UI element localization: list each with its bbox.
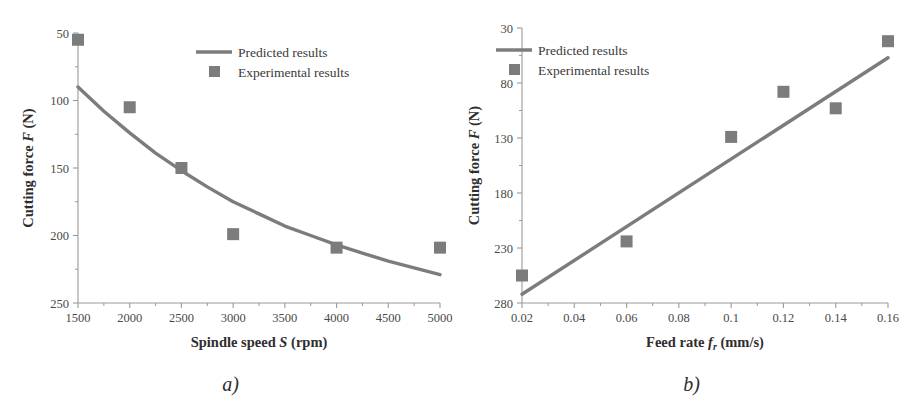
x-tick-label: 0.1: [723, 311, 739, 325]
x-tick-label: 3000: [221, 311, 246, 325]
experimental-data-point: [777, 86, 789, 98]
x-tick-label: 0.08: [668, 311, 690, 325]
predicted-results-line: [78, 87, 440, 275]
x-tick-label: 2500: [169, 311, 194, 325]
x-axis-title: Spindle speed S (rpm): [191, 334, 328, 351]
x-tick-label: 3500: [272, 311, 297, 325]
x-tick-label: 1500: [66, 311, 91, 325]
x-tick-label: 0.06: [616, 311, 638, 325]
y-tick-label: 150: [50, 162, 69, 176]
experimental-data-point: [331, 242, 343, 254]
legend-marker-swatch: [509, 64, 520, 75]
experimental-data-point: [830, 102, 842, 114]
legend-marker-label: Experimental results: [538, 63, 649, 78]
legend-marker-label: Experimental results: [238, 65, 349, 80]
legend-line-label: Predicted results: [538, 43, 628, 58]
experimental-data-point: [516, 270, 528, 282]
y-tick-label: 100: [50, 94, 69, 108]
panel-a: 2502001501005015002000250030003500400045…: [0, 0, 461, 404]
y-tick-label: 180: [494, 187, 513, 201]
figure-container: 2502001501005015002000250030003500400045…: [0, 0, 922, 404]
x-tick-label: 0.12: [772, 311, 794, 325]
x-tick-label: 0.14: [825, 311, 848, 325]
experimental-data-point: [882, 35, 894, 47]
y-tick-label: 30: [501, 22, 514, 36]
panel-a-caption: a): [0, 373, 461, 396]
x-axis-title: Feed rate fr (mm/s): [646, 334, 764, 352]
y-tick-label: 130: [494, 132, 513, 146]
legend-line-label: Predicted results: [238, 45, 328, 60]
legend-marker-swatch: [209, 66, 220, 77]
experimental-data-point: [621, 235, 633, 247]
y-tick-label: 230: [494, 242, 513, 256]
x-tick-label: 0.02: [511, 311, 533, 325]
x-tick-label: 0.16: [877, 311, 899, 325]
experimental-data-point: [175, 162, 187, 174]
chart-b: 28023018013080300.020.040.060.080.10.120…: [461, 0, 922, 360]
predicted-results-line: [522, 58, 888, 295]
y-tick-label: 250: [50, 297, 69, 311]
panel-b-caption: b): [461, 373, 922, 396]
x-tick-label: 4000: [324, 311, 349, 325]
panel-b: 28023018013080300.020.040.060.080.10.120…: [461, 0, 922, 404]
experimental-data-point: [227, 228, 239, 240]
y-tick-label: 280: [494, 297, 513, 311]
x-tick-label: 5000: [428, 311, 453, 325]
y-axis-title: Cutting force F (N): [20, 108, 37, 228]
y-axis-title: Cutting force F (N): [466, 106, 483, 226]
x-tick-label: 0.04: [563, 311, 586, 325]
y-tick-label: 200: [50, 229, 69, 243]
y-tick-label: 80: [501, 77, 514, 91]
x-tick-label: 2000: [117, 311, 142, 325]
y-tick-label: 50: [57, 27, 70, 41]
x-tick-label: 4500: [376, 311, 401, 325]
chart-a: 2502001501005015002000250030003500400045…: [0, 0, 461, 360]
experimental-data-point: [434, 242, 446, 254]
experimental-data-point: [72, 34, 84, 46]
experimental-data-point: [725, 131, 737, 143]
experimental-data-point: [124, 101, 136, 113]
